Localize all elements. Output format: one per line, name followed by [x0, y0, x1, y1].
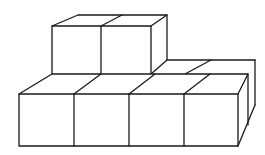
top-cubes [52, 15, 167, 74]
cube-stack-diagram [0, 0, 265, 155]
bottom-front-cubes [19, 74, 255, 146]
